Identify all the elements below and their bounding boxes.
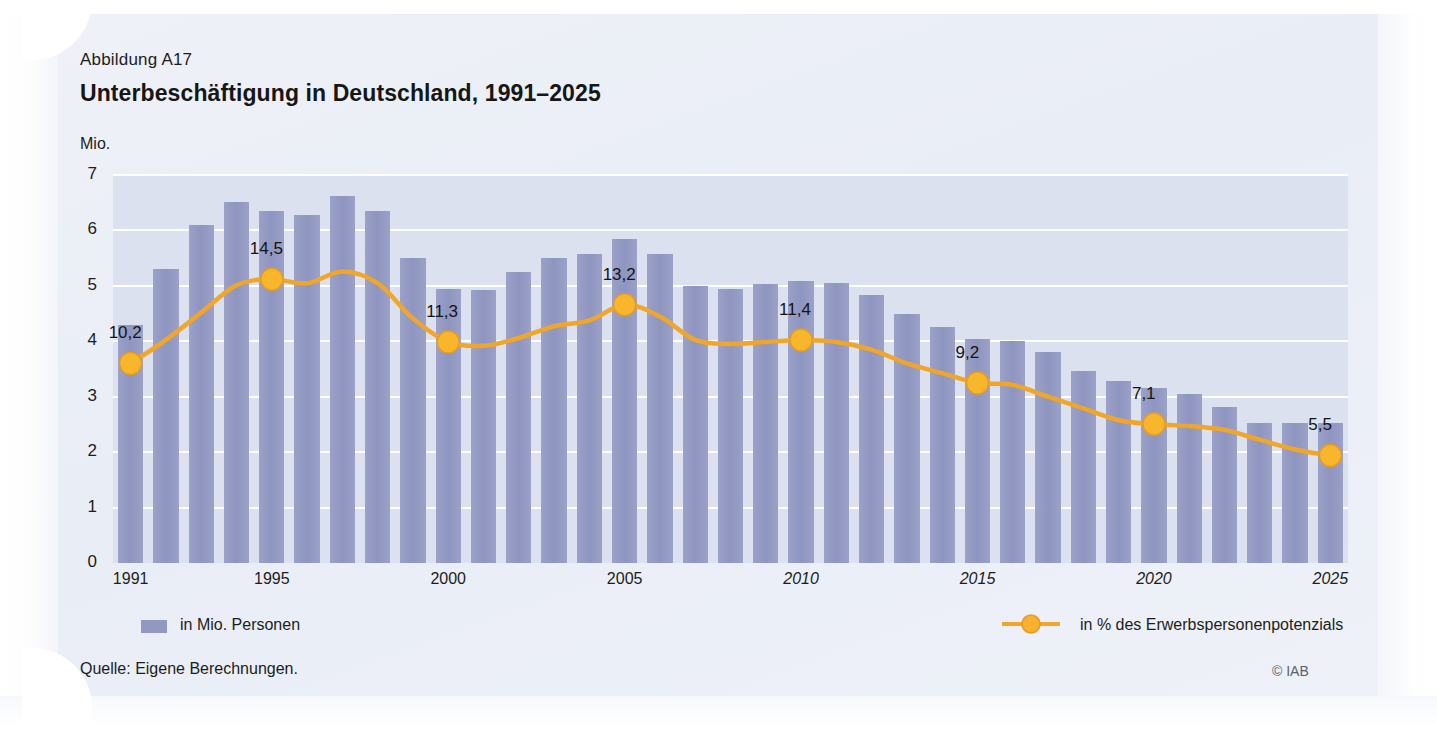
y-axis-tick-label: 3: [57, 386, 97, 406]
legend-line-marker: [1000, 612, 1062, 636]
line-point-marker: [967, 372, 989, 394]
y-axis-tick-label: 4: [57, 330, 97, 350]
line-point-label: 14,5: [250, 239, 283, 259]
copyright-note: © IAB: [1272, 663, 1309, 679]
page-title: Unterbeschäftigung in Deutschland, 1991–…: [80, 80, 601, 107]
x-axis-tick-label: 2010: [761, 570, 841, 588]
line-point-marker: [261, 268, 283, 290]
y-axis-unit-label: Mio.: [80, 135, 110, 153]
line-point-label: 13,2: [603, 265, 636, 285]
x-axis-tick-label: 1991: [91, 570, 171, 588]
y-axis-tick-label: 5: [57, 275, 97, 295]
page-edge-right: [1378, 0, 1437, 739]
line-point-marker: [120, 352, 142, 374]
line-point-label: 5,5: [1308, 415, 1332, 435]
x-axis-tick-label: 2005: [585, 570, 665, 588]
line-point-marker: [790, 329, 812, 351]
page-edge-top: [0, 0, 1437, 14]
x-axis-tick-label: 1995: [232, 570, 312, 588]
line-series-svg: [113, 175, 1348, 563]
y-axis-tick-label: 1: [57, 497, 97, 517]
source-note: Quelle: Eigene Berechnungen.: [80, 660, 298, 678]
line-point-label: 11,3: [426, 302, 458, 322]
line-point-label: 9,2: [956, 343, 980, 363]
y-axis-tick-label: 6: [57, 219, 97, 239]
line-point-label: 7,1: [1132, 384, 1156, 404]
y-axis-tick-label: 2: [57, 441, 97, 461]
figure-number: Abbildung A17: [80, 50, 192, 70]
x-axis-tick-label: 2000: [408, 570, 488, 588]
page-edge-bottom: [0, 696, 1437, 739]
line-point-marker: [1143, 413, 1165, 435]
legend-line-label: in % des Erwerbspersonenpotenzials: [1080, 616, 1343, 634]
line-point-marker: [614, 294, 636, 316]
line-point-label: 10,2: [109, 323, 142, 343]
y-axis-tick-label: 7: [57, 164, 97, 184]
legend-bars-label: in Mio. Personen: [180, 616, 300, 634]
y-axis-tick-label: 0: [57, 552, 97, 572]
page-edge-left: [0, 0, 58, 739]
legend-bars-swatch: [141, 620, 167, 633]
line-point-label: 11,4: [779, 300, 811, 320]
x-axis-tick-label: 2025: [1290, 570, 1370, 588]
x-axis-tick-label: 2020: [1114, 570, 1194, 588]
line-point-marker: [437, 331, 459, 353]
line-point-marker: [1319, 444, 1341, 466]
line-series: [113, 175, 1348, 563]
figure-page: Abbildung A17 Unterbeschäftigung in Deut…: [0, 0, 1437, 739]
x-axis-tick-label: 2015: [938, 570, 1018, 588]
